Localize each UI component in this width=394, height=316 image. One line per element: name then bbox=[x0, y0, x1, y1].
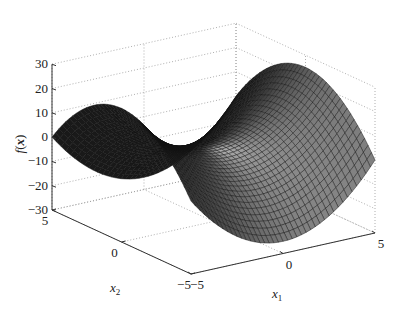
z-tick-label: −20 bbox=[28, 178, 48, 193]
grid-line bbox=[52, 23, 236, 64]
x2-tick bbox=[122, 241, 126, 242]
x1-tick-label: 5 bbox=[378, 236, 385, 251]
x1-axis-title: x1 bbox=[271, 286, 282, 303]
z-tick bbox=[52, 113, 56, 115]
surface-plot: −30−20−100102030−505−505 f(x) x2 x1 bbox=[0, 0, 394, 316]
surface-mesh bbox=[52, 63, 375, 243]
z-tick bbox=[52, 89, 56, 91]
z-tick bbox=[52, 186, 56, 188]
z-tick-label: 0 bbox=[42, 129, 49, 144]
x1-tick-label: −5 bbox=[190, 277, 204, 292]
z-tick bbox=[52, 64, 56, 66]
x2-tick-label: −5 bbox=[177, 277, 191, 292]
x1-tick bbox=[280, 252, 283, 254]
x2-tick-label: 5 bbox=[42, 213, 49, 228]
z-tick-label: −10 bbox=[28, 153, 48, 168]
z-axis-title: f(x) bbox=[12, 135, 27, 154]
x1-tick-label: 0 bbox=[286, 257, 293, 272]
x2-axis-title: x2 bbox=[109, 280, 120, 297]
x2-tick-label: 0 bbox=[111, 245, 118, 260]
x2-tick bbox=[191, 273, 195, 274]
z-tick bbox=[52, 161, 56, 163]
z-tick-label: 10 bbox=[35, 105, 48, 120]
z-tick-label: 30 bbox=[35, 56, 48, 71]
z-tick-label: 20 bbox=[35, 81, 48, 96]
x2-tick bbox=[52, 209, 56, 210]
